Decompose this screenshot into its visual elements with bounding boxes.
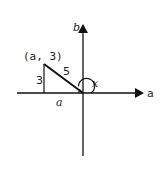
horizontal-leg-label: a [56, 96, 63, 109]
vertex-label: (a, 3) [23, 50, 63, 63]
diagram-canvas: b a (a, 3) 3 5 a x [0, 0, 160, 170]
vertical-axis-label: b [73, 21, 80, 34]
hypotenuse-label: 5 [63, 65, 70, 78]
vertical-leg-label: 3 [36, 74, 43, 87]
horizontal-axis-arrow-icon [135, 88, 144, 98]
angle-label: x [92, 77, 99, 90]
horizontal-axis-label: a [147, 87, 154, 100]
